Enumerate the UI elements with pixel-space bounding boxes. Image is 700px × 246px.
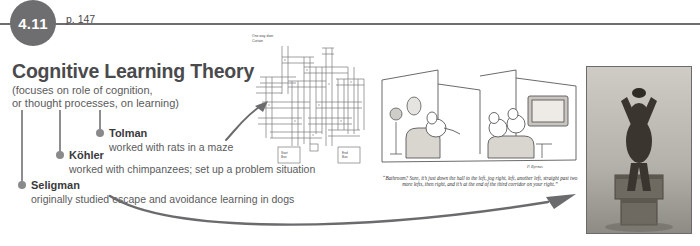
chimpanzee-photo bbox=[586, 66, 692, 234]
connector-line-kohler bbox=[59, 110, 61, 154]
cartoon-svg bbox=[376, 62, 582, 174]
bullet-dot-kohler bbox=[56, 151, 64, 159]
figure-number-label: 4.11 bbox=[18, 15, 48, 32]
cartoonist-signature: P. Byrnes bbox=[527, 164, 543, 169]
cartoon-caption: “Bathroom? Sure, it’s just down the hall… bbox=[382, 175, 578, 188]
researcher-name-seligman: Seligman bbox=[31, 179, 80, 191]
connector-line-seligman bbox=[21, 110, 23, 184]
figure-concept-map: 4.11 p. 147 Cognitive Learning Theory (f… bbox=[0, 0, 700, 246]
legend-curtain: Curtain bbox=[252, 39, 273, 44]
researcher-name-kohler: Köhler bbox=[69, 149, 104, 161]
maze-diagram: One-way door Curtain bbox=[252, 34, 374, 166]
page-reference: p. 147 bbox=[66, 13, 95, 25]
header-divider bbox=[0, 23, 700, 25]
maze-svg: Start Box End Box bbox=[252, 34, 374, 166]
svg-text:Box: Box bbox=[281, 155, 287, 159]
svg-text:Box: Box bbox=[342, 155, 348, 159]
page-title: Cognitive Learning Theory bbox=[12, 60, 254, 83]
researcher-desc-seligman: originally studied escape and avoidance … bbox=[31, 193, 294, 205]
subtitle-line-1: (focuses on role of cognition, bbox=[12, 84, 179, 97]
page-subtitle: (focuses on role of cognition, or though… bbox=[12, 84, 179, 109]
maze-legend: One-way door Curtain bbox=[252, 34, 273, 44]
cartoon-illustration bbox=[376, 62, 582, 174]
bullet-dot-seligman bbox=[18, 181, 26, 189]
chimpanzee-photo-svg bbox=[587, 67, 691, 233]
researcher-desc-tolman: worked with rats in a maze bbox=[109, 141, 233, 153]
figure-number-badge: 4.11 bbox=[11, 1, 55, 45]
researcher-name-tolman: Tolman bbox=[109, 127, 147, 139]
bullet-dot-tolman bbox=[96, 129, 104, 137]
subtitle-line-2: or thought processes, on learning) bbox=[12, 97, 179, 110]
